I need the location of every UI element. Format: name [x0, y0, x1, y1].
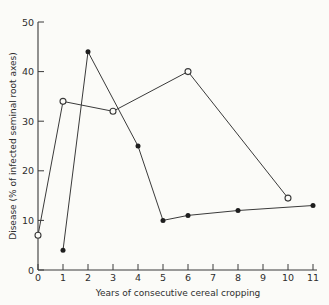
filled-circle-marker [311, 203, 316, 208]
x-tick-label: 1 [60, 272, 66, 283]
x-tick-label: 4 [135, 272, 141, 283]
filled-circle-series-line [63, 52, 313, 250]
y-tick-label: 10 [22, 215, 34, 226]
x-tick-label: 8 [235, 272, 241, 283]
filled-circle-marker [161, 218, 166, 223]
filled-circle-marker [61, 248, 66, 253]
x-tick-label: 9 [260, 272, 266, 283]
x-tick-label: 6 [185, 272, 191, 283]
chart-figure: 0102030405001234567891011 Disease (% of … [0, 0, 329, 305]
filled-circle-marker [86, 49, 91, 54]
x-tick-label: 2 [85, 272, 91, 283]
y-tick-label: 20 [22, 165, 34, 176]
filled-circle-marker [186, 213, 191, 218]
x-tick-label: 0 [35, 272, 41, 283]
x-tick-label: 7 [210, 272, 216, 283]
x-tick-label: 3 [110, 272, 116, 283]
filled-circle-marker [136, 144, 141, 149]
x-tick-label: 5 [160, 272, 166, 283]
y-tick-label: 0 [28, 265, 34, 276]
x-tick-label: 10 [282, 272, 294, 283]
y-axis-title: Disease (% of infected seminal root axes… [8, 52, 18, 240]
x-axis-title: Years of consecutive cereal cropping [96, 288, 261, 298]
open-circle-marker [60, 98, 66, 104]
filled-circle-marker [236, 208, 241, 213]
y-tick-label: 50 [22, 17, 34, 28]
x-tick-label: 11 [307, 272, 319, 283]
open-circle-marker [185, 69, 191, 75]
y-tick-label: 40 [22, 66, 34, 77]
line-chart: 0102030405001234567891011 [0, 0, 329, 305]
open-circle-marker [285, 195, 291, 201]
open-circle-marker [35, 232, 41, 238]
y-tick-label: 30 [22, 116, 34, 127]
open-circle-marker [110, 108, 116, 114]
